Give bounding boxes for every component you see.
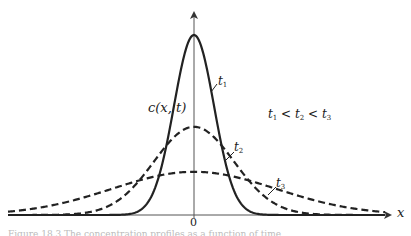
y-axis-label: c(x, t) — [148, 100, 186, 115]
figure-caption: Figure 18.3 The concentration profiles a… — [8, 229, 281, 236]
curve-t3 — [8, 172, 385, 212]
x-axis-label: x — [397, 205, 404, 220]
diffusion-chart — [0, 0, 411, 236]
origin-label: 0 — [190, 216, 197, 229]
time-ordering-annotation: t1 < t2 < t3 — [268, 107, 331, 122]
t3-label: t3 — [276, 176, 285, 191]
curve-t1 — [8, 35, 385, 215]
t1-leader — [211, 84, 217, 92]
t2-label: t2 — [234, 140, 243, 155]
t1-label: t1 — [218, 74, 227, 89]
